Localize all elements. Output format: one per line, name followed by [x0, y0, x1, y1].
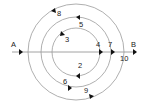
label-9: 9 [84, 86, 88, 95]
arrow-6-icon [68, 85, 72, 91]
arrow-2-icon [76, 73, 80, 79]
label-6: 6 [63, 77, 67, 86]
label-7: 7 [108, 40, 112, 49]
concentric-path-diagram: A B 3 5 8 4 7 10 2 6 9 [0, 0, 144, 105]
arrow-b-icon [133, 49, 137, 55]
label-4: 4 [96, 40, 100, 49]
label-2: 2 [78, 61, 82, 70]
label-5: 5 [79, 20, 83, 29]
arrow-7-icon [111, 49, 115, 55]
label-b: B [131, 40, 136, 49]
label-8: 8 [57, 9, 61, 18]
label-10: 10 [120, 54, 128, 63]
label-a: A [11, 40, 16, 49]
arrow-a-icon [19, 49, 23, 55]
arrow-4-icon [99, 49, 103, 55]
label-3: 3 [65, 35, 69, 44]
